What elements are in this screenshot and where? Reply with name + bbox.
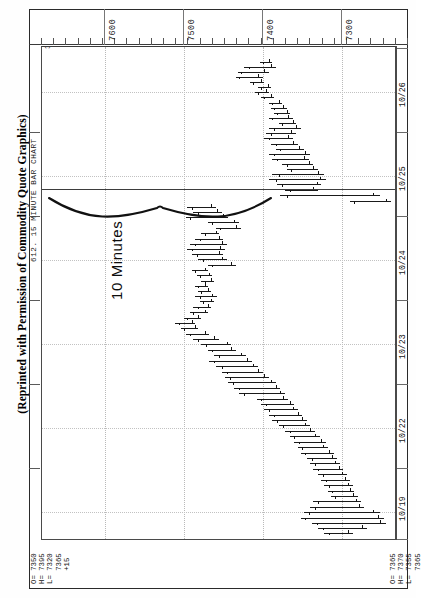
ohlc-close-tick [214,361,215,364]
ohlc-close-tick [282,184,283,187]
ohlc-bar [238,72,270,73]
ohlc-close-tick [290,190,291,193]
ohlc-bar [304,512,380,513]
price-minor-tick [248,38,249,45]
price-minor-tick [78,38,79,45]
price-minor-tick [370,38,371,45]
ohlc-open-tick [253,364,254,367]
left-frame-tick [29,468,40,469]
curly-brace-horizontal-icon [47,196,273,226]
price-axis: 7600750074007300 [29,9,408,45]
price-axis-label: 7400 [266,19,276,41]
price-axis-label: 7500 [187,19,197,41]
ohlc-open-tick [220,246,221,249]
price-minor-tick [200,38,201,45]
ohlc-close-tick [290,431,291,434]
ohlc-open-tick [258,74,259,77]
ohlc-close-tick [201,291,202,294]
ohlc-close-tick [279,174,280,177]
ohlc-close-tick [190,334,191,337]
ohlc-close-tick [197,254,198,257]
ohlc-bar [228,382,275,383]
ohlc-close-tick [198,339,199,342]
date-separator [397,539,408,540]
ohlc-open-tick [378,515,379,518]
ohlc-open-tick [231,262,232,265]
ohlc-open-tick [214,336,215,339]
ohlc-open-tick [386,199,387,202]
ohlc-open-tick [258,369,259,372]
quote-high-right: H= 7370 [397,553,405,584]
ohlc-close-tick [277,113,278,116]
ohlc-open-tick [318,171,319,174]
ohlc-open-tick [209,273,210,276]
ohlc-open-tick [317,182,318,185]
ohlc-open-tick [271,64,272,67]
ohlc-close-tick [179,323,180,326]
plot-area[interactable]: 38 [41,46,396,540]
ohlc-close-tick [263,62,264,65]
ohlc-bar [225,377,269,378]
ohlc-bar [193,307,210,308]
ohlc-close-tick [274,415,275,418]
ohlc-bar [280,195,379,196]
ohlc-close-tick [276,179,277,182]
ohlc-bar [312,523,386,524]
ohlc-close-tick [195,270,196,273]
ohlc-open-tick [342,472,343,475]
ohlc-close-tick [277,159,278,162]
ohlc-close-tick [309,512,310,515]
ohlc-open-tick [222,257,223,260]
ohlc-open-tick [264,69,265,72]
ohlc-close-tick [230,377,231,380]
price-gridline [263,47,264,539]
ohlc-close-tick [282,123,283,126]
ohlc-open-tick [283,105,284,108]
ohlc-open-tick [290,401,291,404]
ohlc-open-tick [205,310,206,313]
ohlc-bar [310,507,364,508]
brace-annotation [47,196,273,226]
ohlc-bar [260,62,273,63]
ohlc-close-tick [264,97,265,100]
ohlc-open-tick [219,236,220,239]
ohlc-open-tick [353,493,354,496]
ohlc-close-tick [203,301,204,304]
ohlc-close-tick [269,138,270,141]
ohlc-open-tick [350,488,351,491]
ohlc-close-tick [291,169,292,172]
date-separator [397,48,408,49]
ohlc-close-tick [184,328,185,331]
price-minor-tick [90,38,91,45]
ohlc-close-tick [195,244,196,247]
ohlc-close-tick [287,164,288,167]
price-minor-tick [212,38,213,45]
book-caption: (Reprinted with Permission of Commodity … [16,4,28,524]
ohlc-close-tick [261,87,262,90]
ohlc-open-tick [380,520,381,523]
ohlc-close-tick [198,286,199,289]
ohlc-close-tick [212,265,213,268]
ohlc-bar [201,281,214,282]
ohlc-open-tick [304,156,305,159]
date-gridline [42,176,395,177]
ohlc-open-tick [192,320,193,323]
ohlc-bar [318,528,367,529]
price-minor-tick [236,38,237,45]
price-major-tick [104,9,105,45]
ohlc-close-tick [219,355,220,358]
price-major-tick [262,9,263,45]
ohlc-close-tick [222,366,223,369]
ohlc-close-tick [200,296,201,299]
ohlc-open-tick [335,461,336,464]
ohlc-open-tick [356,499,357,502]
ohlc-open-tick [212,294,213,297]
ohlc-close-tick [302,447,303,450]
ohlc-bar [186,334,210,335]
ohlc-open-tick [305,423,306,426]
left-frame-tick [29,132,40,133]
ohlc-open-tick [291,130,292,133]
ohlc-open-tick [362,525,363,528]
ohlc-open-tick [279,100,280,103]
ohlc-bar [200,301,214,302]
